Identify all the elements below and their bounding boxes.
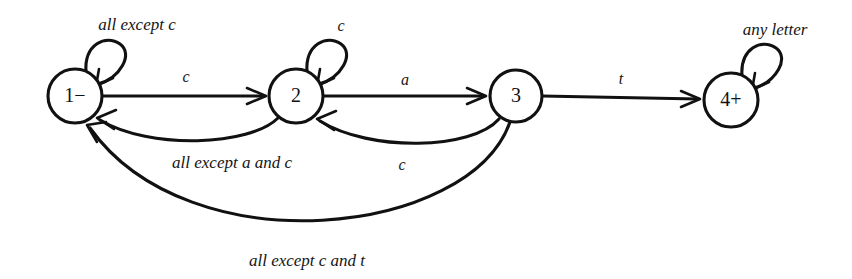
transition-label-2-1: all except a and c (172, 153, 292, 172)
state-label: 3 (511, 84, 521, 106)
state-node-2: 2 (269, 69, 323, 123)
state-node-3: 3 (490, 70, 542, 122)
transition-2-to-1: all except a and c (97, 110, 292, 172)
transition-1-to-2: c (102, 68, 266, 104)
transition-label-3-1: all except c and t (249, 251, 366, 270)
state-node-4: 4+ (704, 73, 758, 127)
self-loop-state-1: all except c (86, 15, 176, 86)
state-label: 1− (64, 84, 85, 106)
transition-edge (320, 119, 499, 143)
arrowhead-icon (87, 122, 106, 142)
self-loop-label-1: all except c (98, 15, 176, 34)
self-loop-label-2: c (337, 17, 344, 34)
state-node-1: 1− (48, 69, 102, 123)
transition-3-to-4: t (542, 70, 700, 107)
state-label: 4+ (720, 88, 741, 110)
diagram-canvas: c a t all except a and c c all except c (0, 0, 852, 279)
transition-label-2-3: a (401, 71, 409, 88)
transition-edge (100, 118, 278, 141)
transition-label-3-4: t (619, 70, 624, 87)
transition-label-3-2: c (398, 156, 405, 173)
transition-edge (542, 96, 698, 99)
transition-3-to-2: c (317, 111, 499, 173)
transition-3-to-1: all except c and t (87, 122, 510, 270)
transition-2-to-3: a (323, 71, 486, 104)
state-label: 2 (291, 84, 301, 106)
state-machine-diagram: c a t all except a and c c all except c (0, 0, 852, 279)
self-loop-state-4: any letter (742, 20, 808, 90)
self-loop-label-4: any letter (743, 20, 808, 39)
transition-label-1-2: c (182, 68, 189, 85)
